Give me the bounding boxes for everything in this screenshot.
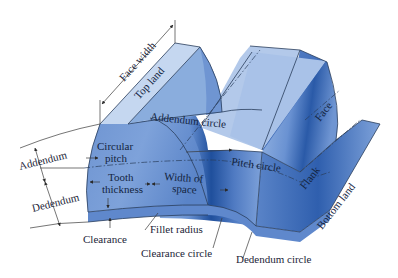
- clearance-label: Clearance: [83, 233, 127, 245]
- left-tooth-front-face: [87, 118, 209, 212]
- tooth-thickness-label-line1: Tooth: [108, 171, 134, 183]
- tooth-thickness-label-line2: thickness: [102, 183, 143, 195]
- circular-pitch-label-line2: pitch: [105, 152, 127, 164]
- dedendum-label: Dedendum: [31, 191, 81, 214]
- width-of-space-label-line2: space: [172, 182, 197, 196]
- fillet-radius-label: Fillet radius: [150, 223, 203, 235]
- gear-tooth-diagram: Face width Top land Addendum circle Adde…: [0, 0, 398, 278]
- clearance-circle-label: Clearance circle: [141, 247, 212, 259]
- dedendum-circle-label: Dedendum circle: [236, 253, 312, 265]
- circular-pitch-label-line1: Circular: [97, 140, 133, 152]
- addendum-label: Addendum: [18, 148, 69, 172]
